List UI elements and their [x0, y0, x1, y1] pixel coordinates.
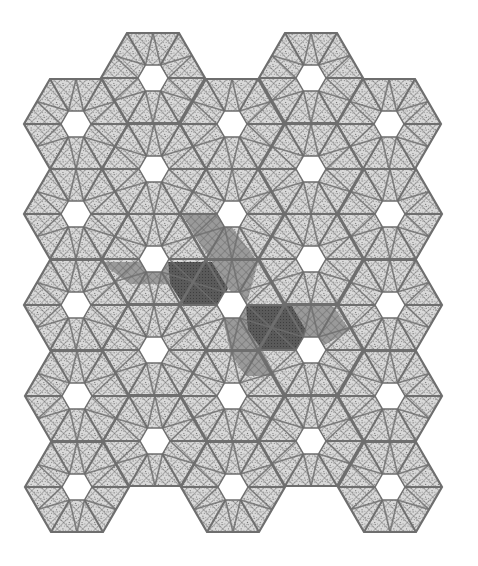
hex-hole	[62, 474, 92, 500]
hex-hole	[296, 428, 326, 454]
hex-hole	[217, 111, 247, 137]
hex-hole	[61, 201, 91, 227]
hex-hole	[139, 246, 169, 272]
hex-hole	[218, 474, 248, 500]
hex-hole	[374, 111, 404, 137]
hex-hole	[296, 156, 326, 182]
hex-hole	[139, 156, 169, 182]
hex-hole	[296, 246, 326, 272]
hex-hole	[140, 428, 170, 454]
hex-hole	[375, 474, 405, 500]
hex-hole	[217, 292, 247, 318]
tiling-figure	[0, 0, 478, 566]
hex-hole	[375, 292, 405, 318]
hex-hole	[62, 383, 92, 409]
hex-hole	[217, 201, 247, 227]
hex-hole	[61, 292, 91, 318]
hex-hole	[375, 201, 405, 227]
hex-hole	[138, 65, 168, 91]
hex-hole	[296, 337, 326, 363]
hex-hole	[375, 383, 405, 409]
hex-hole	[139, 337, 169, 363]
hex-hole	[61, 111, 91, 137]
hex-hole	[217, 383, 247, 409]
tiling-canvas	[0, 0, 478, 566]
hex-hole	[296, 65, 326, 91]
